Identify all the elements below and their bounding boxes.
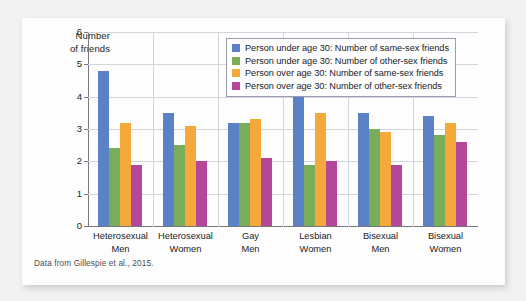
bar (261, 158, 272, 226)
y-axis-tick-label: 4 (60, 90, 82, 101)
bar (163, 113, 174, 226)
bar (423, 116, 434, 226)
legend-item[interactable]: Person under age 30: Number of other-sex… (232, 55, 449, 68)
bar (131, 165, 142, 226)
bar (456, 142, 467, 226)
x-axis-category-label-line: Women (283, 243, 348, 256)
x-axis-category-label-line: Women (153, 243, 218, 256)
y-axis-tick-label: 6 (60, 26, 82, 37)
legend-color-swatch (232, 44, 240, 52)
figure-card: Numberof friends 0123456 HeterosexualMen… (22, 18, 505, 285)
y-axis-tick-label: 0 (60, 220, 82, 231)
legend-label: Person over age 30: Number of other-sex … (245, 81, 442, 91)
x-axis-category-label-line: Bisexual (348, 230, 413, 243)
bar (369, 129, 380, 226)
legend-label: Person under age 30: Number of other-sex… (245, 56, 447, 66)
bar (304, 165, 315, 226)
bar (358, 113, 369, 226)
legend-color-swatch (232, 69, 240, 77)
x-axis-category-label-line: Lesbian (283, 230, 348, 243)
bar (445, 123, 456, 226)
y-axis-tick-label: 5 (60, 58, 82, 69)
y-axis-tick-label: 2 (60, 155, 82, 166)
chart-legend: Person under age 30: Number of same-sex … (226, 38, 456, 97)
x-axis-category-label-line: Men (218, 243, 283, 256)
bar (185, 126, 196, 226)
x-axis-category-label: GayMen (218, 230, 283, 255)
x-axis-category-label-line: Bisexual (413, 230, 478, 243)
bar (98, 71, 109, 226)
x-axis-category-label-line: Men (348, 243, 413, 256)
figure-caption: Data from Gillespie et al., 2015. (34, 258, 154, 268)
x-axis-category-label: HeterosexualMen (88, 230, 153, 255)
x-axis-category-label: BisexualWomen (413, 230, 478, 255)
bar (326, 161, 337, 226)
bar (380, 132, 391, 226)
bar (434, 135, 445, 226)
legend-item[interactable]: Person under age 30: Number of same-sex … (232, 42, 449, 55)
bar (196, 161, 207, 226)
legend-label: Person under age 30: Number of same-sex … (245, 43, 449, 53)
y-axis-tick-label: 1 (60, 187, 82, 198)
x-axis-category-label: HeterosexualWomen (153, 230, 218, 255)
bar (391, 165, 402, 226)
legend-item[interactable]: Person over age 30: Number of same-sex f… (232, 67, 449, 80)
bar (250, 119, 261, 226)
legend-color-swatch (232, 82, 240, 90)
bar (174, 145, 185, 226)
legend-color-swatch (232, 57, 240, 65)
x-axis-category-label-line: Gay (218, 230, 283, 243)
legend-label: Person over age 30: Number of same-sex f… (245, 68, 443, 78)
legend-item[interactable]: Person over age 30: Number of other-sex … (232, 80, 449, 93)
x-axis-category-label-line: Heterosexual (88, 230, 153, 243)
bar (228, 123, 239, 226)
bar (293, 97, 304, 226)
y-axis-tick-label: 3 (60, 123, 82, 134)
bar (239, 123, 250, 226)
x-axis-category-label-line: Men (88, 243, 153, 256)
bar-group (153, 32, 218, 226)
bar (109, 148, 120, 226)
x-axis-category-label-line: Heterosexual (153, 230, 218, 243)
bar (315, 113, 326, 226)
x-axis-category-label-line: Women (413, 243, 478, 256)
bar-group (88, 32, 153, 226)
x-axis-category-label: BisexualMen (348, 230, 413, 255)
x-axis-category-label: LesbianWomen (283, 230, 348, 255)
bar (120, 123, 131, 226)
